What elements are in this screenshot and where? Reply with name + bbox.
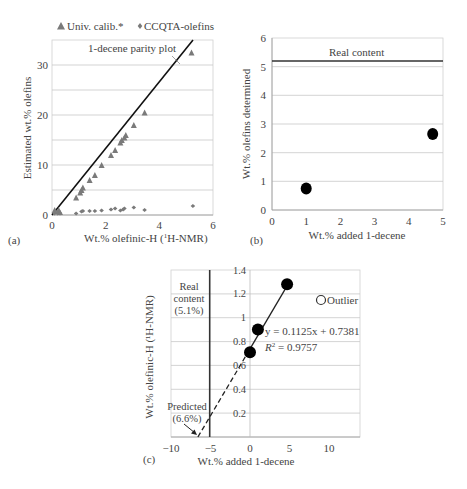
xlabel-c: Wt.% added 1-decene — [198, 455, 295, 467]
data-point — [427, 128, 438, 140]
panel-label-b: (b) — [250, 234, 263, 247]
xtick-b: 1 — [303, 215, 309, 227]
data-point — [301, 183, 312, 195]
outlier-label: Outlier — [327, 294, 358, 306]
predicted-label: Predicted — [167, 401, 207, 412]
real-content-label: (5.1%) — [175, 305, 204, 317]
figure: 0 10 20 30 0 2 4 6 Wt.% olefinic-H (1H-N… — [0, 0, 467, 489]
xlabel-a: Wt.% olefinic-H (1H-NMR) — [84, 232, 208, 245]
ytick-c: 0.8 — [233, 336, 246, 347]
ytick-c: 0.2 — [233, 408, 246, 419]
xtick-a-2: 2 — [103, 219, 109, 231]
ytick-b: 5 — [261, 61, 267, 73]
xtick-b: 0 — [269, 215, 275, 227]
ytick-b: 4 — [261, 89, 267, 101]
real-content-label: Real content — [329, 46, 384, 58]
xtick-b: 3 — [372, 215, 378, 227]
xtick-c: −10 — [162, 442, 180, 454]
ytick-a-10: 10 — [37, 159, 49, 171]
panel-b: Real content 0 1 2 3 4 5 6 0 1 2 3 4 5 W… — [240, 32, 446, 247]
ylabel-c: Wt.% olefinic-H (¹H-NMR) — [143, 295, 156, 419]
predicted-label: (6.6%) — [173, 413, 202, 425]
triangle-legend-icon — [57, 22, 65, 30]
ytick-b: 0 — [261, 204, 267, 216]
data-point — [244, 346, 256, 358]
real-content-label: Real — [179, 281, 198, 292]
xtick-c: −5 — [205, 442, 217, 454]
outlier-icon — [317, 296, 326, 305]
xtick-c: 10 — [324, 442, 336, 454]
ccqta-olefins-series — [52, 204, 195, 216]
ytick-b: 2 — [261, 147, 267, 159]
panel-label-c: (c) — [143, 453, 156, 466]
xtick-a-4: 4 — [157, 219, 163, 231]
ytick-a-20: 20 — [37, 109, 49, 121]
xtick-c: 0 — [247, 442, 253, 454]
ytick-c: 1.2 — [233, 288, 246, 299]
gridlines-b — [272, 67, 443, 182]
xtick-a-0: 0 — [49, 219, 55, 231]
xtick-c: 5 — [287, 442, 293, 454]
ytick-c: 0.6 — [233, 360, 246, 371]
xtick-a-6: 6 — [210, 219, 216, 231]
ytick-b: 1 — [261, 175, 267, 187]
ytick-a-30: 30 — [37, 59, 49, 71]
data-point — [281, 278, 293, 290]
panel-c: Outlier y = 0.1125x + 0.7381 R2 = 0.9757… — [143, 265, 360, 468]
xtick-b: 4 — [406, 215, 412, 227]
ytick-b: 3 — [261, 118, 267, 130]
xlabel-b: Wt.% added 1-decene — [309, 229, 406, 241]
r-squared: R2 = 0.9757 — [264, 341, 318, 353]
ytick-c: 1 — [241, 312, 246, 323]
real-content-label: content — [174, 293, 205, 304]
ytick-c: 1.4 — [233, 265, 247, 276]
legend-ccqta-olefins: CCQTA-olefins — [144, 20, 214, 32]
data-point — [252, 324, 264, 336]
ytick-a-0: 0 — [43, 209, 49, 221]
xtick-b: 5 — [440, 215, 446, 227]
panel-label-a: (a) — [8, 234, 21, 247]
diamond-legend-icon — [138, 23, 143, 29]
ytick-c: 0.4 — [233, 384, 247, 395]
panel-a: 0 10 20 30 0 2 4 6 Wt.% olefinic-H (1H-N… — [8, 20, 216, 247]
parity-annotation: 1-decene parity plot — [88, 42, 176, 54]
ylabel-b: Wt.% olefins determined — [240, 68, 252, 179]
ytick-b: 6 — [261, 32, 267, 44]
ylabel-a: Estimated wt.% olefins — [21, 77, 33, 179]
legend-univ-calib: Univ. calib.* — [67, 20, 123, 32]
parity-line — [52, 40, 193, 215]
fit-equation: y = 0.1125x + 0.7381 — [265, 325, 360, 337]
xtick-b: 2 — [338, 215, 344, 227]
